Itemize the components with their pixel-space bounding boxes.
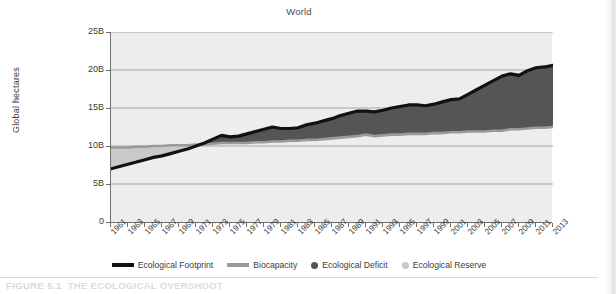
figure-card: World Global hectares 05B10B15B20B25B 19… [0, 0, 598, 272]
legend-item[interactable]: Biocapacity [227, 260, 297, 270]
figure-caption-title: THE ECOLOGICAL OVERSHOOT [68, 281, 223, 290]
plot-area [110, 32, 552, 222]
figure-caption: FIGURE 5.1 THE ECOLOGICAL OVERSHOOT [6, 281, 566, 294]
chart-canvas [111, 32, 553, 222]
figure-page: World Global hectares 05B10B15B20B25B 19… [0, 0, 616, 294]
y-tick-label: 10B [74, 140, 104, 150]
chart-plot-wrapper: Global hectares 05B10B15B20B25B 19611963… [0, 0, 598, 272]
legend-dot-swatch-icon [402, 262, 409, 269]
legend-line-swatch-icon [227, 263, 249, 267]
legend-label: Ecological Deficit [322, 260, 387, 270]
legend-dot-swatch-icon [311, 262, 318, 269]
legend-label: Biocapacity [253, 260, 297, 270]
y-tick-label: 20B [74, 64, 104, 74]
figure-caption-number: FIGURE 5.1 [6, 281, 62, 290]
x-tick-label: 2013 [551, 217, 570, 236]
y-axis-label: Global hectares [11, 35, 21, 165]
legend-line-swatch-icon [112, 263, 134, 267]
y-tick-label: 25B [74, 26, 104, 36]
chart-legend: Ecological FootprintBiocapacityEcologica… [0, 257, 598, 273]
legend-item[interactable]: Ecological Deficit [311, 260, 387, 270]
legend-item[interactable]: Ecological Reserve [402, 260, 487, 270]
y-tick-label: 5B [74, 178, 104, 188]
caption-divider [0, 277, 598, 278]
y-tick-label: 15B [74, 102, 104, 112]
legend-label: Ecological Footprint [138, 260, 213, 270]
y-tick-label: 0 [74, 216, 104, 226]
legend-item[interactable]: Ecological Footprint [112, 260, 213, 270]
legend-label: Ecological Reserve [413, 260, 487, 270]
